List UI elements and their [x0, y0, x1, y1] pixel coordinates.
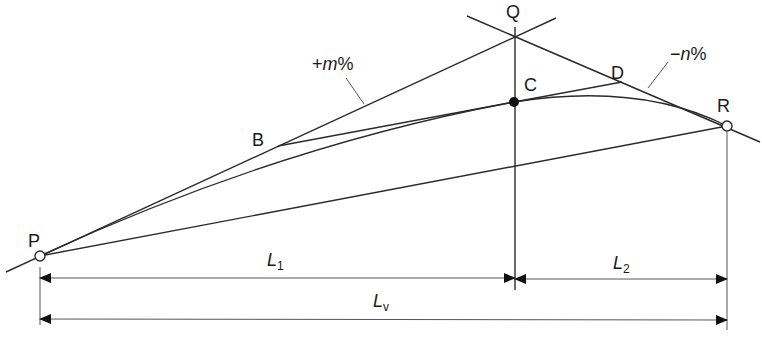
vertical-curve-diagram: P B Q C D R +m% −n% L1 L2 Lv [0, 0, 762, 351]
label-r: R [717, 96, 730, 116]
l1-var: L [267, 250, 277, 270]
chord-pr-line [40, 126, 727, 256]
dimension-lv-line [40, 319, 727, 320]
grade-up-unit: % [338, 54, 354, 74]
grade-down-sign: − [670, 44, 681, 64]
grade-down-leader [648, 62, 668, 88]
grade-up-var: m [323, 54, 338, 74]
label-q: Q [506, 2, 520, 22]
grade-up-sign: + [312, 54, 323, 74]
grade-up-leader [346, 78, 364, 104]
grade-down-unit: % [691, 44, 707, 64]
label-d: D [611, 63, 624, 83]
label-b: B [252, 130, 264, 150]
point-c-marker [509, 97, 519, 107]
lv-var: L [373, 291, 383, 311]
grade-up-label: +m% [312, 54, 354, 74]
l1-sub: 1 [277, 259, 284, 273]
dimension-l1-label: L1 [267, 250, 284, 273]
dimension-lv-label: Lv [373, 291, 389, 314]
point-r-marker [722, 121, 732, 131]
vertical-curve-path [40, 96, 727, 256]
grade-down-label: −n% [670, 44, 707, 64]
point-p-marker [35, 251, 45, 261]
lv-sub: v [383, 300, 389, 314]
dimension-l2-label: L2 [613, 253, 630, 276]
l2-var: L [613, 253, 623, 273]
label-c: C [524, 75, 537, 95]
label-p: P [28, 231, 40, 251]
l2-sub: 2 [623, 262, 630, 276]
grade-down-var: n [681, 44, 691, 64]
